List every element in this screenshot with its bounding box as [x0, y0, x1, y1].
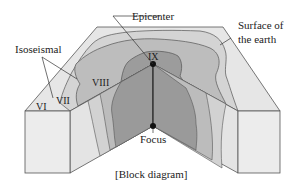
zone-label-viii: VIII — [92, 77, 109, 88]
zone-label-vi: VI — [36, 101, 47, 112]
left-block-front — [25, 111, 70, 173]
right-block — [238, 111, 280, 173]
focus-point — [150, 123, 156, 129]
surface-label-line1: Surface of — [238, 19, 284, 31]
isoseismal-label: Isoseismal — [15, 43, 61, 55]
zone-label-ix: IX — [148, 51, 159, 62]
block-diagram: Epicenter Surface of the earth Isoseisma… — [0, 0, 304, 191]
zone-label-vii: VII — [56, 95, 70, 106]
surface-label-line2: the earth — [238, 33, 277, 45]
caption: [Block diagram] — [115, 168, 187, 180]
epicenter-label: Epicenter — [132, 10, 174, 22]
focus-label: Focus — [140, 133, 166, 145]
right-block-front — [238, 111, 280, 173]
left-block — [25, 111, 70, 173]
